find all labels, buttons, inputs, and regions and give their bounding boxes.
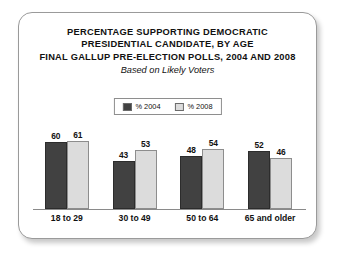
bar-value-label: 43 bbox=[113, 150, 135, 160]
chart-title-block: PERCENTAGE SUPPORTING DEMOCRATIC PRESIDE… bbox=[19, 26, 316, 77]
bar-value-label: 61 bbox=[67, 130, 89, 140]
bar bbox=[180, 156, 202, 209]
x-axis-label: 50 to 64 bbox=[169, 213, 237, 223]
bar bbox=[45, 142, 67, 209]
bar bbox=[270, 158, 292, 209]
bar-value-label: 60 bbox=[45, 131, 67, 141]
bar-group: 5246 bbox=[236, 131, 304, 209]
bar bbox=[135, 150, 157, 209]
bar-column: 61 bbox=[67, 131, 89, 209]
bar-group: 4353 bbox=[101, 131, 169, 209]
bar-value-label: 52 bbox=[248, 140, 270, 150]
bar-column: 43 bbox=[113, 131, 135, 209]
legend-swatch-2008 bbox=[175, 103, 184, 111]
legend-entry-2004: % 2004 bbox=[122, 102, 160, 111]
x-axis-label: 30 to 49 bbox=[101, 213, 169, 223]
x-axis-label: 65 and older bbox=[236, 213, 304, 223]
legend-swatch-2004 bbox=[122, 103, 131, 111]
bar-group: 4854 bbox=[169, 131, 237, 209]
bar-column: 60 bbox=[45, 131, 67, 209]
legend-label-2008: % 2008 bbox=[188, 102, 213, 111]
bar-group: 6061 bbox=[33, 131, 101, 209]
bar-column: 54 bbox=[202, 131, 224, 209]
bar-column: 52 bbox=[248, 131, 270, 209]
chart-x-axis-labels: 18 to 2930 to 4950 to 6465 and older bbox=[33, 213, 306, 229]
bar-value-label: 53 bbox=[135, 139, 157, 149]
bar-column: 46 bbox=[270, 131, 292, 209]
title-line-1: PERCENTAGE SUPPORTING DEMOCRATIC bbox=[19, 26, 316, 38]
title-line-2: PRESIDENTIAL CANDIDATE, BY AGE bbox=[19, 38, 316, 50]
bar-value-label: 48 bbox=[180, 145, 202, 155]
chart-subtitle: Based on Likely Voters bbox=[19, 64, 316, 77]
bar-column: 48 bbox=[180, 131, 202, 209]
legend-label-2004: % 2004 bbox=[135, 102, 160, 111]
bar bbox=[202, 149, 224, 209]
bar bbox=[113, 161, 135, 209]
x-axis-label: 18 to 29 bbox=[33, 213, 101, 223]
title-line-3: FINAL GALLUP PRE-ELECTION POLLS, 2004 AN… bbox=[19, 51, 316, 63]
chart-legend: % 2004 % 2008 bbox=[113, 98, 221, 115]
bar bbox=[248, 151, 270, 209]
chart-plot-area: 6061435348545246 bbox=[33, 131, 304, 209]
chart-card: PERCENTAGE SUPPORTING DEMOCRATIC PRESIDE… bbox=[18, 12, 317, 239]
bar-value-label: 54 bbox=[202, 138, 224, 148]
bar-column: 53 bbox=[135, 131, 157, 209]
legend-entry-2008: % 2008 bbox=[175, 102, 213, 111]
chart-baseline-axis bbox=[33, 209, 306, 210]
bar bbox=[67, 141, 89, 209]
bar-value-label: 46 bbox=[270, 147, 292, 157]
